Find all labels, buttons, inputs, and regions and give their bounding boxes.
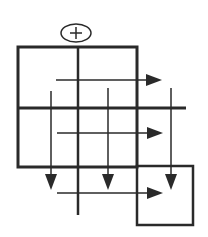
diagram-canvas (0, 0, 208, 237)
arrowhead-down-icon (45, 174, 57, 190)
arrowhead-right-icon (146, 74, 162, 86)
arrowhead-down-icon (165, 174, 177, 190)
arrowhead-right-icon (147, 127, 163, 139)
arrowhead-right-icon (147, 187, 163, 199)
grid-traversal-diagram (0, 0, 208, 237)
frame-layer (18, 47, 193, 225)
highlight-box (137, 166, 193, 225)
arrow-layer (45, 74, 177, 199)
arrowhead-down-icon (102, 174, 114, 190)
origin-marker (61, 24, 91, 42)
